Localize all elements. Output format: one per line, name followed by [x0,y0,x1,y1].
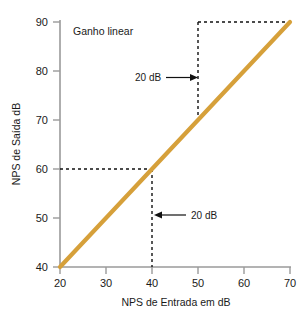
x-tick-label-50: 50 [192,277,204,289]
y-axis-title: NPS de Saída dB [10,103,22,185]
x-tick-label-40: 40 [146,277,158,289]
linear-gain-chart: 40 50 60 70 80 90 20 30 40 50 60 70 [0,0,308,315]
x-tick-label-30: 30 [100,277,112,289]
x-tick-label-20: 20 [54,277,66,289]
y-tick-label-80: 80 [36,65,48,77]
y-tick-label-90: 90 [36,16,48,28]
annotation-lower-label: 20 dB [191,210,217,221]
y-tick-label-60: 60 [36,163,48,175]
plot-title: Ganho linear [73,25,134,37]
x-tick-label-60: 60 [238,277,250,289]
x-tick-label-70: 70 [284,277,296,289]
y-tick-label-40: 40 [36,261,48,273]
chart-container: 40 50 60 70 80 90 20 30 40 50 60 70 [0,0,308,315]
annotation-upper-label: 20 dB [135,72,161,83]
y-tick-label-70: 70 [36,114,48,126]
y-tick-label-50: 50 [36,212,48,224]
x-axis-title: NPS de Entrada em dB [121,296,230,308]
